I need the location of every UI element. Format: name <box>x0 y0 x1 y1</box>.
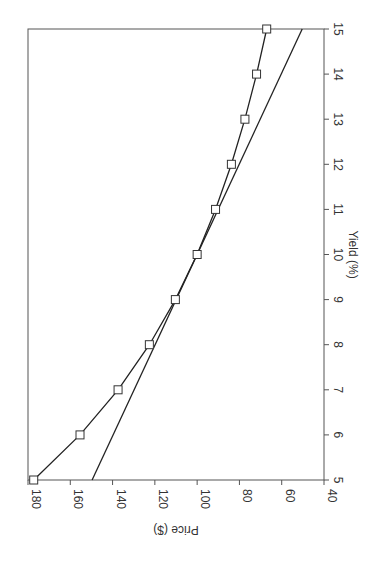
yield-tick-label: 14 <box>331 67 345 81</box>
price-tick-label: 40 <box>325 489 339 503</box>
price-tick-label: 80 <box>240 489 254 503</box>
price-tick-label: 60 <box>283 489 297 503</box>
price-point-marker <box>171 296 179 304</box>
plot-frame <box>28 29 324 480</box>
series-lines <box>34 29 303 480</box>
yield-tick-label: 12 <box>331 158 345 172</box>
price-point-marker <box>227 160 235 168</box>
yield-tick-label: 6 <box>331 432 345 439</box>
price-point-marker <box>263 25 271 33</box>
price-yield-chart: 40608010012014016018056789101112131415 P… <box>0 0 377 575</box>
price-point-marker <box>76 431 84 439</box>
yield-tick-label: 15 <box>331 22 345 36</box>
price-tick-label: 120 <box>156 489 170 509</box>
yield-tick-label: 11 <box>331 203 345 216</box>
yield-tick-label: 7 <box>331 386 345 393</box>
yield-tick-label: 10 <box>331 248 345 262</box>
price-tick-label: 160 <box>71 489 85 509</box>
yield-tick-label: 13 <box>331 113 345 127</box>
price-point-marker <box>114 386 122 394</box>
price-point-marker <box>145 341 153 349</box>
price-tick-label: 100 <box>198 489 212 509</box>
price-point-marker <box>30 476 38 484</box>
y-axis-label: Price ($) <box>153 523 198 537</box>
yield-tick-label: 5 <box>331 477 345 484</box>
yield-tick-label: 8 <box>331 341 345 348</box>
price-point-marker <box>193 251 201 259</box>
price-tick-label: 180 <box>29 489 43 509</box>
series-markers <box>30 25 271 484</box>
price-point-marker <box>241 115 249 123</box>
price-point-marker <box>253 70 261 78</box>
price-tick-label: 140 <box>114 489 128 509</box>
yield-tick-label: 9 <box>331 296 345 303</box>
x-axis-label: Yield (%) <box>346 230 360 278</box>
price-curve-line <box>34 29 267 480</box>
price-point-marker <box>212 205 220 213</box>
